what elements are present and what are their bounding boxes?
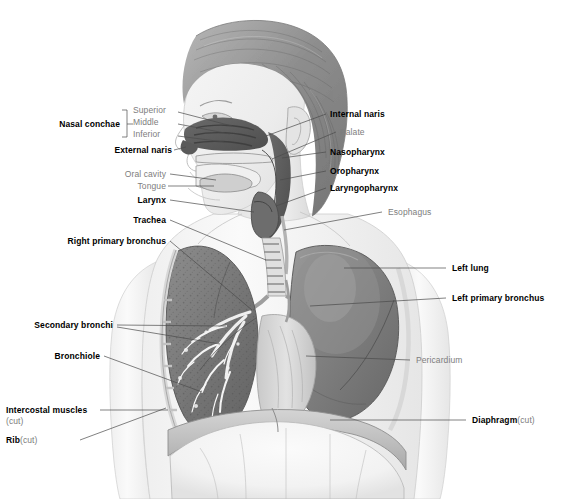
label-right-primary-bronchus: Right primary bronchus xyxy=(32,236,166,247)
respiratory-anatomy-figure: Nasal conchae Superior Middle Inferior E… xyxy=(0,0,564,499)
leader-oral-cavity xyxy=(170,174,216,180)
label-esophagus: Esophagus xyxy=(388,207,431,218)
leader-secondary-bronchi-1 xyxy=(117,325,226,326)
leader-laryngopharynx xyxy=(276,188,326,206)
label-palate: Palate xyxy=(340,127,365,138)
leader-secondary-bronchi-2 xyxy=(117,327,220,344)
label-trachea: Trachea xyxy=(96,215,166,226)
label-oropharynx: Oropharynx xyxy=(330,166,379,177)
leader-right-primary-bronchus xyxy=(170,241,252,310)
leader-larynx xyxy=(170,200,254,212)
label-rib-text: Rib xyxy=(6,435,20,445)
leader-left-primary-bronchus xyxy=(310,298,446,306)
label-nasal-conchae: Nasal conchae xyxy=(36,119,120,130)
label-internal-naris: Internal naris xyxy=(330,109,385,120)
leader-esophagus xyxy=(284,212,382,230)
label-pericardium: Pericardium xyxy=(416,355,462,366)
label-inferior: Inferior xyxy=(133,129,160,140)
leader-external-naris xyxy=(174,147,186,150)
label-bronchiole: Bronchiole xyxy=(40,351,100,362)
label-tongue: Tongue xyxy=(88,181,166,192)
leader-bronchiole xyxy=(104,356,202,392)
label-intercostal-muscles: Intercostal muscles (cut) xyxy=(6,405,87,426)
label-left-primary-bronchus: Left primary bronchus xyxy=(452,293,544,304)
leader-inferior xyxy=(178,136,224,142)
leader-oropharynx xyxy=(280,171,326,180)
label-rib: Rib(cut) xyxy=(6,435,38,446)
label-rib-cut: (cut) xyxy=(20,435,38,445)
label-middle: Middle xyxy=(133,117,159,128)
leader-rib xyxy=(80,408,166,440)
label-laryngopharynx: Laryngopharynx xyxy=(330,183,398,194)
label-intercostal-muscles-cut: (cut) xyxy=(6,416,87,427)
leader-internal-naris xyxy=(266,114,326,136)
label-nasopharynx: Nasopharynx xyxy=(330,147,385,158)
leader-middle xyxy=(178,124,230,134)
label-diaphragm-cut: (cut) xyxy=(517,415,535,425)
leader-pericardium xyxy=(306,356,410,360)
leader-superior xyxy=(178,112,232,126)
label-diaphragm: Diaphragm(cut) xyxy=(472,415,535,426)
leader-nasopharynx xyxy=(282,152,326,158)
bracket-nasal-conchae xyxy=(122,110,127,137)
label-left-lung: Left lung xyxy=(452,263,489,274)
label-diaphragm-text: Diaphragm xyxy=(472,415,517,425)
leader-trachea xyxy=(170,220,266,260)
label-external-naris: External naris xyxy=(76,145,172,156)
label-oral-cavity: Oral cavity xyxy=(88,169,166,180)
label-secondary-bronchi: Secondary bronchi xyxy=(16,320,113,331)
label-superior: Superior xyxy=(133,105,166,116)
label-intercostal-muscles-text: Intercostal muscles xyxy=(6,405,87,415)
label-larynx: Larynx xyxy=(96,195,166,206)
